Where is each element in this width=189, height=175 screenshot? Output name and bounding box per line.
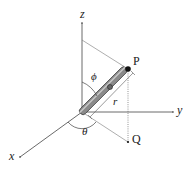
spherical-coordinates-diagram bbox=[0, 0, 189, 175]
phi-label: ϕ bbox=[91, 71, 97, 82]
point-p bbox=[125, 66, 131, 72]
theta-label: θ bbox=[82, 126, 87, 137]
rod-knob bbox=[108, 85, 113, 90]
point-q bbox=[127, 141, 129, 143]
oq-line bbox=[82, 112, 128, 142]
point-q-label: Q bbox=[132, 133, 141, 145]
y-axis-label: y bbox=[177, 104, 182, 116]
point-p-label: P bbox=[133, 55, 140, 67]
z-axis-label: z bbox=[80, 8, 85, 20]
x-axis bbox=[20, 112, 82, 157]
rod bbox=[78, 66, 128, 116]
z-projection-line bbox=[82, 40, 128, 69]
radius-label: r bbox=[113, 96, 117, 107]
x-axis-label: x bbox=[9, 150, 14, 162]
